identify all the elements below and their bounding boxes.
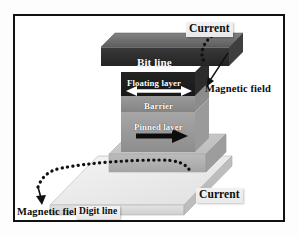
label-current-top: Current: [186, 22, 233, 37]
label-bit-line: Bit line: [137, 57, 172, 68]
label-digit-line: Digit line: [76, 206, 120, 219]
mram-diagram-canvas: [0, 0, 299, 237]
label-magnetic-field-bottom: Magnetic field: [17, 207, 83, 218]
label-magnetic-field-top: Magnetic field: [205, 84, 271, 95]
bit-line-slab: [101, 33, 243, 66]
label-current-bottom: Current: [196, 188, 243, 203]
label-pinned-layer: Pinned layer: [134, 123, 183, 132]
label-floating-layer: Floating layer: [127, 79, 181, 88]
magnetic-field-leader-bottom: [36, 187, 46, 205]
label-barrier: Barrier: [144, 102, 173, 111]
mram-cell-figure: Current Magnetic field Current Magnetic …: [0, 0, 299, 237]
